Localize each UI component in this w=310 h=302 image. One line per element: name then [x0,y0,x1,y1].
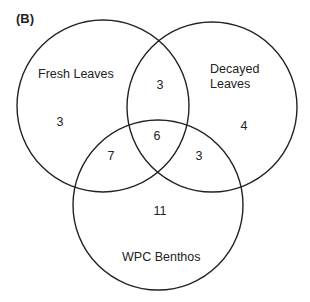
set-label-wpc-benthos: WPC Benthos [122,250,201,265]
circle-decayed-leaves [127,22,297,192]
count-all-three: 6 [154,129,161,143]
set-label-decayed-line1: Decayed [210,62,259,77]
count-fresh-only: 3 [57,115,64,129]
count-fresh-decayed: 3 [157,78,164,92]
set-label-fresh-leaves: Fresh Leaves [38,67,114,82]
count-decayed-benthos: 3 [196,149,203,163]
count-decayed-only: 4 [241,119,248,133]
count-benthos-only: 11 [154,204,167,218]
circle-fresh-leaves [17,20,189,192]
set-label-decayed-leaves: Decayed Leaves [210,62,259,92]
panel-label: (B) [16,11,34,26]
count-fresh-benthos: 7 [108,149,115,163]
set-label-decayed-line2: Leaves [210,77,259,92]
